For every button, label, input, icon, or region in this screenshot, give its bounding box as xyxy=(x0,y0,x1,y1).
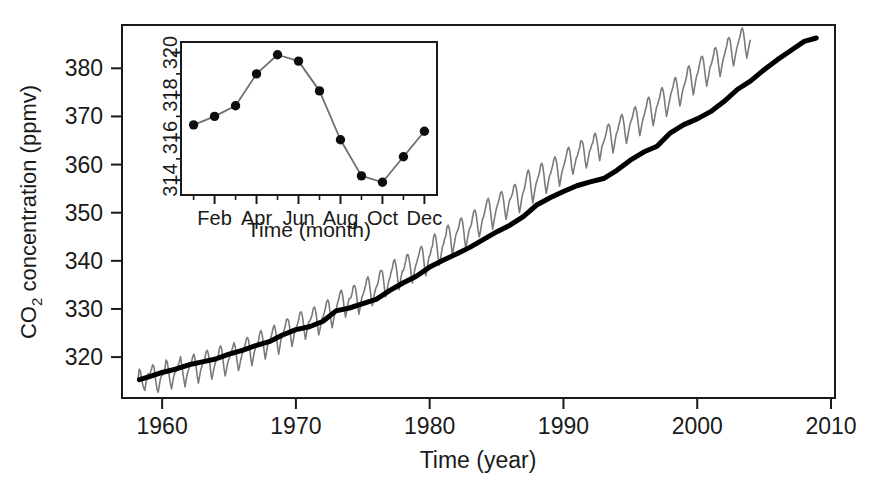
inset-data-point xyxy=(273,50,282,59)
inset-x-tick-label: Dec xyxy=(407,207,443,229)
y-tick-label: 320 xyxy=(65,344,103,370)
x-tick-label: 1960 xyxy=(137,413,188,439)
inset-data-point xyxy=(294,56,303,65)
inset-y-tick-label: 318 xyxy=(159,78,181,111)
inset-data-point xyxy=(420,127,429,136)
inset-data-point xyxy=(315,86,324,95)
y-axis-title-pre: CO xyxy=(16,306,41,339)
inset-x-tick-label: Oct xyxy=(367,207,399,229)
co2-concentration-figure: 196019701980199020002010 320330340350360… xyxy=(0,0,878,493)
main-x-axis-title: Time (year) xyxy=(420,447,537,473)
inset-data-point xyxy=(210,112,219,121)
inset-data-point xyxy=(399,152,408,161)
inset-data-point xyxy=(357,171,366,180)
inset-x-axis-title: Time (month) xyxy=(247,218,371,241)
y-axis-title-subscript: 2 xyxy=(28,298,45,306)
y-tick-label: 330 xyxy=(65,296,103,322)
inset-y-tick-label: 320 xyxy=(159,36,181,69)
y-axis-title-post: concentration (ppmv) xyxy=(16,85,41,298)
inset-background xyxy=(181,42,437,195)
x-tick-label: 1990 xyxy=(538,413,589,439)
inset-data-point xyxy=(189,120,198,129)
inset-data-point xyxy=(378,178,387,187)
y-tick-label: 380 xyxy=(65,55,103,81)
inset-y-tick-label: 314 xyxy=(159,163,181,196)
inset-data-point xyxy=(252,69,261,78)
x-tick-label: 1970 xyxy=(270,413,321,439)
inset-x-tick-label: Feb xyxy=(197,207,231,229)
y-tick-label: 350 xyxy=(65,200,103,226)
y-tick-label: 340 xyxy=(65,248,103,274)
inset-data-point xyxy=(231,101,240,110)
x-tick-label: 1980 xyxy=(404,413,455,439)
x-tick-label: 2010 xyxy=(805,413,856,439)
x-tick-label: 2000 xyxy=(672,413,723,439)
chart-canvas: 196019701980199020002010 320330340350360… xyxy=(0,0,878,493)
inset-data-point xyxy=(336,135,345,144)
inset-y-tick-label: 316 xyxy=(159,121,181,154)
y-tick-label: 370 xyxy=(65,103,103,129)
y-tick-label: 360 xyxy=(65,152,103,178)
